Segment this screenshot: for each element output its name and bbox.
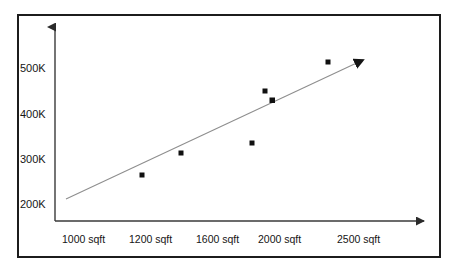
data-point: [179, 151, 184, 156]
axes-group: [55, 27, 424, 221]
chart-canvas: [0, 0, 452, 269]
trend-line-group: [66, 60, 363, 199]
data-point: [140, 173, 145, 178]
x-tick-label-1200-sqft: 1200 sqft: [129, 233, 172, 245]
scatter-plot-figure: 500K 400K 300K 200K 1000 sqft 1200 sqft …: [0, 0, 452, 269]
data-points-group: [140, 60, 331, 178]
y-tick-label-500k: 500K: [20, 62, 46, 74]
trend-line: [66, 60, 363, 199]
data-point: [250, 141, 255, 146]
data-point: [270, 98, 276, 104]
x-tick-label-1000-sqft: 1000 sqft: [62, 233, 105, 245]
data-point: [326, 60, 331, 65]
x-tick-label-2000-sqft: 2000 sqft: [258, 233, 301, 245]
x-tick-label-2500-sqft: 2500 sqft: [337, 233, 380, 245]
y-tick-label-300k: 300K: [20, 153, 46, 165]
data-point: [263, 89, 268, 94]
y-tick-label-200k: 200K: [20, 198, 46, 210]
x-tick-label-1600-sqft: 1600 sqft: [196, 233, 239, 245]
y-tick-label-400k: 400K: [20, 108, 46, 120]
